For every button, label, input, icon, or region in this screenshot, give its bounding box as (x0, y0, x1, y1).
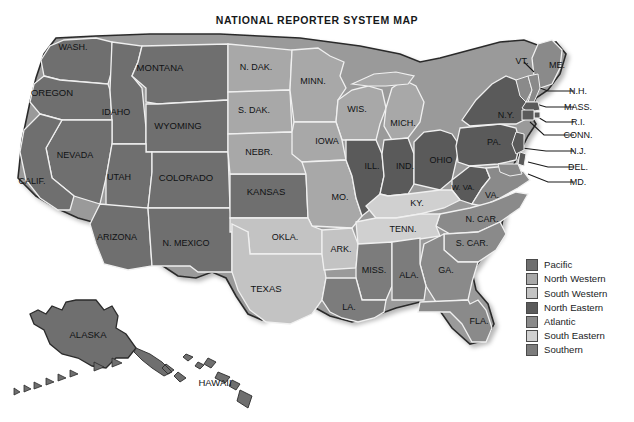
legend-label: South Western (544, 289, 607, 299)
callout-label: N.J. (570, 146, 586, 156)
state-label: N. MEXICO (162, 238, 209, 248)
state-rhode-island[interactable] (534, 112, 540, 118)
state-label: MONTANA (137, 62, 184, 73)
state-label: N. CAR. (465, 214, 498, 224)
state-label: HAWAII (198, 377, 231, 388)
callout-label: MD. (570, 177, 587, 187)
state-label: LA. (342, 302, 356, 312)
state-label: ME. (549, 60, 565, 70)
leader-md (528, 174, 574, 182)
state-label: TENN. (390, 224, 417, 234)
legend-item[interactable]: South Eastern (526, 329, 632, 343)
legend-label: North Eastern (544, 303, 603, 313)
state-label: KY. (410, 198, 423, 208)
alaska-panhandle (134, 348, 186, 382)
legend-swatch (526, 287, 538, 299)
callout-label: CONN. (564, 130, 593, 140)
map-figure: NATIONAL REPORTER SYSTEM MAP (0, 0, 634, 422)
legend-item[interactable]: Atlantic (526, 315, 632, 329)
callout-label: MASS. (564, 102, 592, 112)
state-label: IND. (396, 161, 414, 171)
state-label: KANSAS (247, 186, 286, 197)
legend-item[interactable]: Pacific (526, 258, 632, 272)
legend-label: Southern (544, 345, 583, 355)
state-label: N. DAK. (240, 62, 273, 72)
state-label: ARK. (330, 244, 351, 254)
callout-label: R.I. (571, 117, 585, 127)
state-label: MO. (332, 192, 349, 202)
state-delaware[interactable] (518, 152, 526, 166)
state-label: S. DAK. (238, 105, 270, 115)
legend-item[interactable]: Southern (526, 343, 632, 357)
state-label: OKLA. (272, 232, 299, 242)
state-label: ALASKA (70, 329, 108, 340)
state-label: ILL. (364, 161, 379, 171)
state-label: OHIO (429, 155, 452, 165)
page-title: NATIONAL REPORTER SYSTEM MAP (0, 14, 634, 26)
state-label: COLORADO (159, 172, 213, 183)
state-label: TEXAS (250, 283, 281, 294)
us-map: WASH.OREGONIDAHOMONTANANEVADACALIF.UTAHW… (0, 28, 634, 422)
leader-nj (522, 148, 574, 151)
state-label: WYOMING (154, 120, 202, 131)
legend: PacificNorth WesternSouth WesternNorth E… (526, 258, 632, 357)
state-label: UTAH (107, 172, 131, 182)
state-label: GA. (438, 265, 454, 275)
legend-item[interactable]: South Western (526, 286, 632, 300)
state-label: N.Y. (498, 110, 514, 120)
state-label: ARIZONA (97, 232, 137, 242)
legend-swatch (526, 344, 538, 356)
legend-swatch (526, 259, 538, 271)
state-label: MINN. (300, 76, 326, 86)
legend-label: North Western (544, 274, 606, 284)
state-label: W. VA. (451, 183, 474, 192)
legend-item[interactable]: North Eastern (526, 301, 632, 315)
state-label: MISS. (362, 265, 387, 275)
state-label: FLA. (469, 316, 488, 326)
legend-swatch (526, 302, 538, 314)
us-map-svg: WASH.OREGONIDAHOMONTANANEVADACALIF.UTAHW… (0, 28, 634, 422)
state-connecticut[interactable] (522, 110, 534, 120)
legend-label: Atlantic (544, 317, 575, 327)
legend-item[interactable]: North Western (526, 272, 632, 286)
callout-label: N.H. (569, 86, 587, 96)
callout-label: DEL. (568, 162, 588, 172)
state-label: S. CAR. (456, 238, 489, 248)
state-label: PA. (487, 137, 501, 147)
legend-swatch (526, 273, 538, 285)
legend-swatch (526, 316, 538, 328)
callout-label: VT. (515, 56, 528, 66)
state-label: OREGON (31, 87, 73, 98)
legend-label: Pacific (544, 260, 572, 270)
leader-ri (536, 116, 574, 122)
state-label: MICH. (390, 118, 416, 128)
state-label: IOWA (315, 136, 339, 146)
state-label: VA. (485, 190, 499, 200)
legend-swatch (526, 330, 538, 342)
state-label: NEVADA (57, 150, 93, 160)
state-label: WASH. (58, 42, 87, 52)
state-label: NEBR. (245, 147, 273, 157)
legend-label: South Eastern (544, 331, 605, 341)
state-label: WIS. (347, 104, 367, 114)
state-label: IDAHO (102, 107, 131, 117)
state-label: CALIF. (18, 176, 45, 186)
state-montana[interactable] (132, 44, 228, 104)
state-label: ALA. (399, 270, 419, 280)
